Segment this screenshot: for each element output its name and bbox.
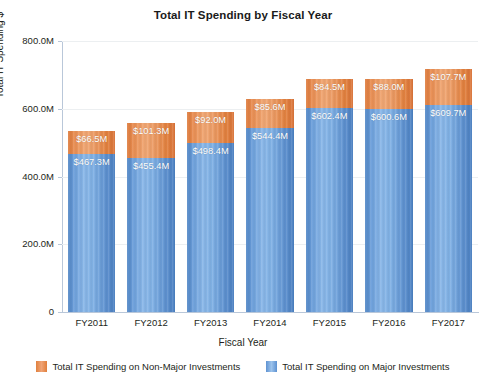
bar-segment-non-major[interactable]: $101.3M [127,123,175,157]
bar-segment-major[interactable]: $544.4M [246,128,294,312]
y-axis-tick-label: 0 [2,307,54,317]
bar-value-label: $467.3M [68,157,116,167]
bar-value-label: $101.3M [127,126,175,136]
bar-value-label: $85.6M [246,102,294,112]
x-axis-tick-label: FY2013 [181,317,240,328]
bar-value-label: $84.5M [306,82,354,92]
legend-item[interactable]: Total IT Spending on Non-Major Investmen… [36,361,240,372]
bar-segment-non-major[interactable]: $88.0M [365,79,413,109]
y-axis-tick-label: 800.0M [2,36,54,46]
legend-label: Total IT Spending on Non-Major Investmen… [52,361,240,372]
x-axis-tick-label: FY2011 [62,317,121,328]
bar-value-label: $92.0M [187,115,235,125]
chart-legend: Total IT Spending on Non-Major Investmen… [0,361,486,372]
bar-segment-major[interactable]: $467.3M [68,154,116,312]
bar-segment-non-major[interactable]: $84.5M [306,79,354,108]
legend-item[interactable]: Total IT Spending on Major Investments [266,361,449,372]
y-axis-tick-label: 200.0M [2,239,54,249]
plot-area: $66.5M$467.3M$101.3M$455.4M$92.0M$498.4M… [62,41,478,312]
y-axis-title: Total IT Spending $ [0,12,5,98]
bar-value-label: $602.4M [306,111,354,121]
bar-stack[interactable]: $88.0M$600.6M [365,79,413,312]
x-axis-tick-label: FY2014 [240,317,299,328]
bar-stack[interactable]: $66.5M$467.3M [68,131,116,312]
bar-segment-major[interactable]: $609.7M [425,105,473,312]
bar-value-label: $544.4M [246,131,294,141]
chart-title: Total IT Spending by Fiscal Year [0,9,486,21]
bar-segment-non-major[interactable]: $85.6M [246,99,294,128]
bar-segment-major[interactable]: $498.4M [187,143,235,312]
bar-stack[interactable]: $101.3M$455.4M [127,123,175,312]
y-axis-tick-label: 400.0M [2,172,54,182]
bar-value-label: $600.6M [365,112,413,122]
x-axis-tick-label: FY2015 [300,317,359,328]
bar-segment-major[interactable]: $602.4M [306,108,354,312]
bar-segment-non-major[interactable]: $66.5M [68,131,116,154]
bar-stack[interactable]: $85.6M$544.4M [246,99,294,312]
bar-stack[interactable]: $107.7M$609.7M [425,69,473,312]
bar-value-label: $66.5M [68,134,116,144]
x-axis-title: Fiscal Year [0,337,486,348]
legend-swatch-major [266,361,277,372]
legend-swatch-nonmajor [36,361,47,372]
x-axis-tick-label: FY2017 [419,317,478,328]
bar-series-group: $66.5M$467.3M$101.3M$455.4M$92.0M$498.4M… [62,41,478,312]
bar-segment-non-major[interactable]: $107.7M [425,69,473,105]
chart-container: Total IT Spending by Fiscal Year Total I… [0,0,486,377]
bar-stack[interactable]: $92.0M$498.4M [187,112,235,312]
x-axis-tick-label: FY2016 [359,317,418,328]
bar-value-label: $455.4M [127,161,175,171]
bar-segment-major[interactable]: $455.4M [127,158,175,312]
x-axis-line [62,312,479,313]
bar-segment-non-major[interactable]: $92.0M [187,112,235,143]
y-axis-tick-label: 600.0M [2,104,54,114]
bar-value-label: $107.7M [425,72,473,82]
legend-label: Total IT Spending on Major Investments [282,361,449,372]
bar-segment-major[interactable]: $600.6M [365,109,413,312]
bar-value-label: $88.0M [365,82,413,92]
x-axis-tick-label: FY2012 [121,317,180,328]
bar-value-label: $609.7M [425,108,473,118]
bar-value-label: $498.4M [187,146,235,156]
bar-stack[interactable]: $84.5M$602.4M [306,79,354,312]
